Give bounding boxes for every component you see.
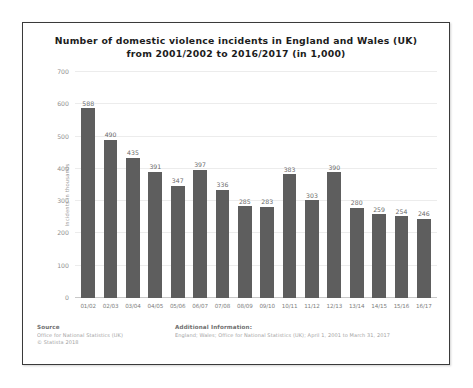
- bar-group[interactable]: 38310/11: [278, 72, 300, 298]
- bar-rect[interactable]: [305, 200, 319, 298]
- bar-group[interactable]: 39012/13: [323, 72, 345, 298]
- bar-rect[interactable]: [238, 206, 252, 298]
- bar-group[interactable]: 25914/15: [368, 72, 390, 298]
- y-tick-label-100: 100: [57, 261, 69, 268]
- plot-area: 0100200300400500600700 58801/0249002/034…: [75, 72, 437, 298]
- bar-group[interactable]: 34705/06: [167, 72, 189, 298]
- chart-footer: Source Office for National Statistics (U…: [23, 324, 449, 364]
- bar-value-label: 383: [284, 166, 296, 173]
- bar-value-label: 435: [127, 149, 139, 156]
- x-tick-label: 11/12: [304, 303, 320, 309]
- bar-value-label: 259: [373, 206, 385, 213]
- x-tick-label: 07/08: [215, 303, 231, 309]
- additional-info-block: Additional Information: England; Wales; …: [175, 324, 435, 358]
- source-line-1: Office for National Statistics (UK): [37, 332, 157, 340]
- bar-rect[interactable]: [216, 190, 230, 298]
- bar-value-label: 588: [82, 100, 94, 107]
- bar-rect[interactable]: [104, 140, 118, 298]
- bar-rect[interactable]: [372, 214, 386, 298]
- x-tick-label: 09/10: [259, 303, 275, 309]
- bar-value-label: 490: [105, 131, 117, 138]
- bar-value-label: 336: [217, 181, 229, 188]
- bar-group[interactable]: 39104/05: [144, 72, 166, 298]
- x-tick-label: 15/16: [394, 303, 410, 309]
- bar-rect[interactable]: [193, 170, 207, 298]
- additional-info-heading: Additional Information:: [175, 324, 435, 332]
- bar-value-label: 390: [328, 164, 340, 171]
- x-tick-label: 13/14: [349, 303, 365, 309]
- bar-value-label: 285: [239, 198, 251, 205]
- y-axis-label: Incidents in thousands: [64, 164, 70, 227]
- chart-title-line-2: from 2001/2002 to 2016/2017 (in 1,000): [37, 47, 435, 60]
- bar-rect[interactable]: [81, 108, 95, 298]
- bar-group[interactable]: 28309/10: [256, 72, 278, 298]
- x-tick-label: 03/04: [125, 303, 141, 309]
- y-tick-label-700: 700: [57, 68, 69, 75]
- x-tick-label: 06/07: [192, 303, 208, 309]
- bar-series: 58801/0249002/0343503/0439104/0534705/06…: [75, 72, 437, 298]
- source-line-2: © Statista 2018: [37, 339, 157, 347]
- y-tick-label-500: 500: [57, 132, 69, 139]
- chart-title-line-1: Number of domestic violence incidents in…: [37, 34, 435, 47]
- y-tick-label-0: 0: [65, 294, 69, 301]
- x-tick-label: 16/17: [416, 303, 432, 309]
- chart-title: Number of domestic violence incidents in…: [23, 23, 449, 64]
- additional-info-line-1: England; Wales; Office for National Stat…: [175, 332, 435, 340]
- plot-wrapper: Incidents in thousands 01002003004005006…: [31, 66, 439, 324]
- bar-rect[interactable]: [395, 216, 409, 298]
- bar-group[interactable]: 39706/07: [189, 72, 211, 298]
- x-tick-label: 12/13: [327, 303, 343, 309]
- bar-group[interactable]: 30311/12: [301, 72, 323, 298]
- source-block: Source Office for National Statistics (U…: [37, 324, 157, 358]
- bar-group[interactable]: 25415/16: [390, 72, 412, 298]
- y-tick-label-400: 400: [57, 164, 69, 171]
- bar-value-label: 246: [418, 210, 430, 217]
- y-tick-label-600: 600: [57, 100, 69, 107]
- bar-group[interactable]: 49002/03: [99, 72, 121, 298]
- x-tick-label: 14/15: [371, 303, 387, 309]
- bar-group[interactable]: 28508/09: [234, 72, 256, 298]
- bar-rect[interactable]: [171, 186, 185, 298]
- bar-value-label: 391: [149, 163, 161, 170]
- bar-group[interactable]: 33607/08: [211, 72, 233, 298]
- bar-rect[interactable]: [148, 172, 162, 298]
- chart-card: Number of domestic violence incidents in…: [22, 22, 450, 365]
- bar-rect[interactable]: [327, 172, 341, 298]
- bar-value-label: 347: [172, 177, 184, 184]
- bar-group[interactable]: 58801/02: [77, 72, 99, 298]
- y-tick-label-200: 200: [57, 229, 69, 236]
- x-tick-label: 02/03: [103, 303, 119, 309]
- x-tick-label: 10/11: [282, 303, 298, 309]
- bar-rect[interactable]: [417, 219, 431, 298]
- source-heading: Source: [37, 324, 157, 332]
- bar-rect[interactable]: [260, 207, 274, 298]
- x-tick-label: 01/02: [80, 303, 96, 309]
- bar-rect[interactable]: [283, 174, 297, 298]
- y-tick-label-300: 300: [57, 197, 69, 204]
- x-tick-label: 08/09: [237, 303, 253, 309]
- x-tick-label: 04/05: [148, 303, 164, 309]
- bar-rect[interactable]: [350, 208, 364, 298]
- bar-value-label: 397: [194, 161, 206, 168]
- bar-value-label: 283: [261, 198, 273, 205]
- bar-group[interactable]: 28013/14: [346, 72, 368, 298]
- x-tick-label: 05/06: [170, 303, 186, 309]
- bar-group[interactable]: 24616/17: [413, 72, 435, 298]
- bar-value-label: 303: [306, 192, 318, 199]
- bar-group[interactable]: 43503/04: [122, 72, 144, 298]
- bar-value-label: 254: [396, 208, 408, 215]
- bar-rect[interactable]: [126, 158, 140, 298]
- bar-value-label: 280: [351, 199, 363, 206]
